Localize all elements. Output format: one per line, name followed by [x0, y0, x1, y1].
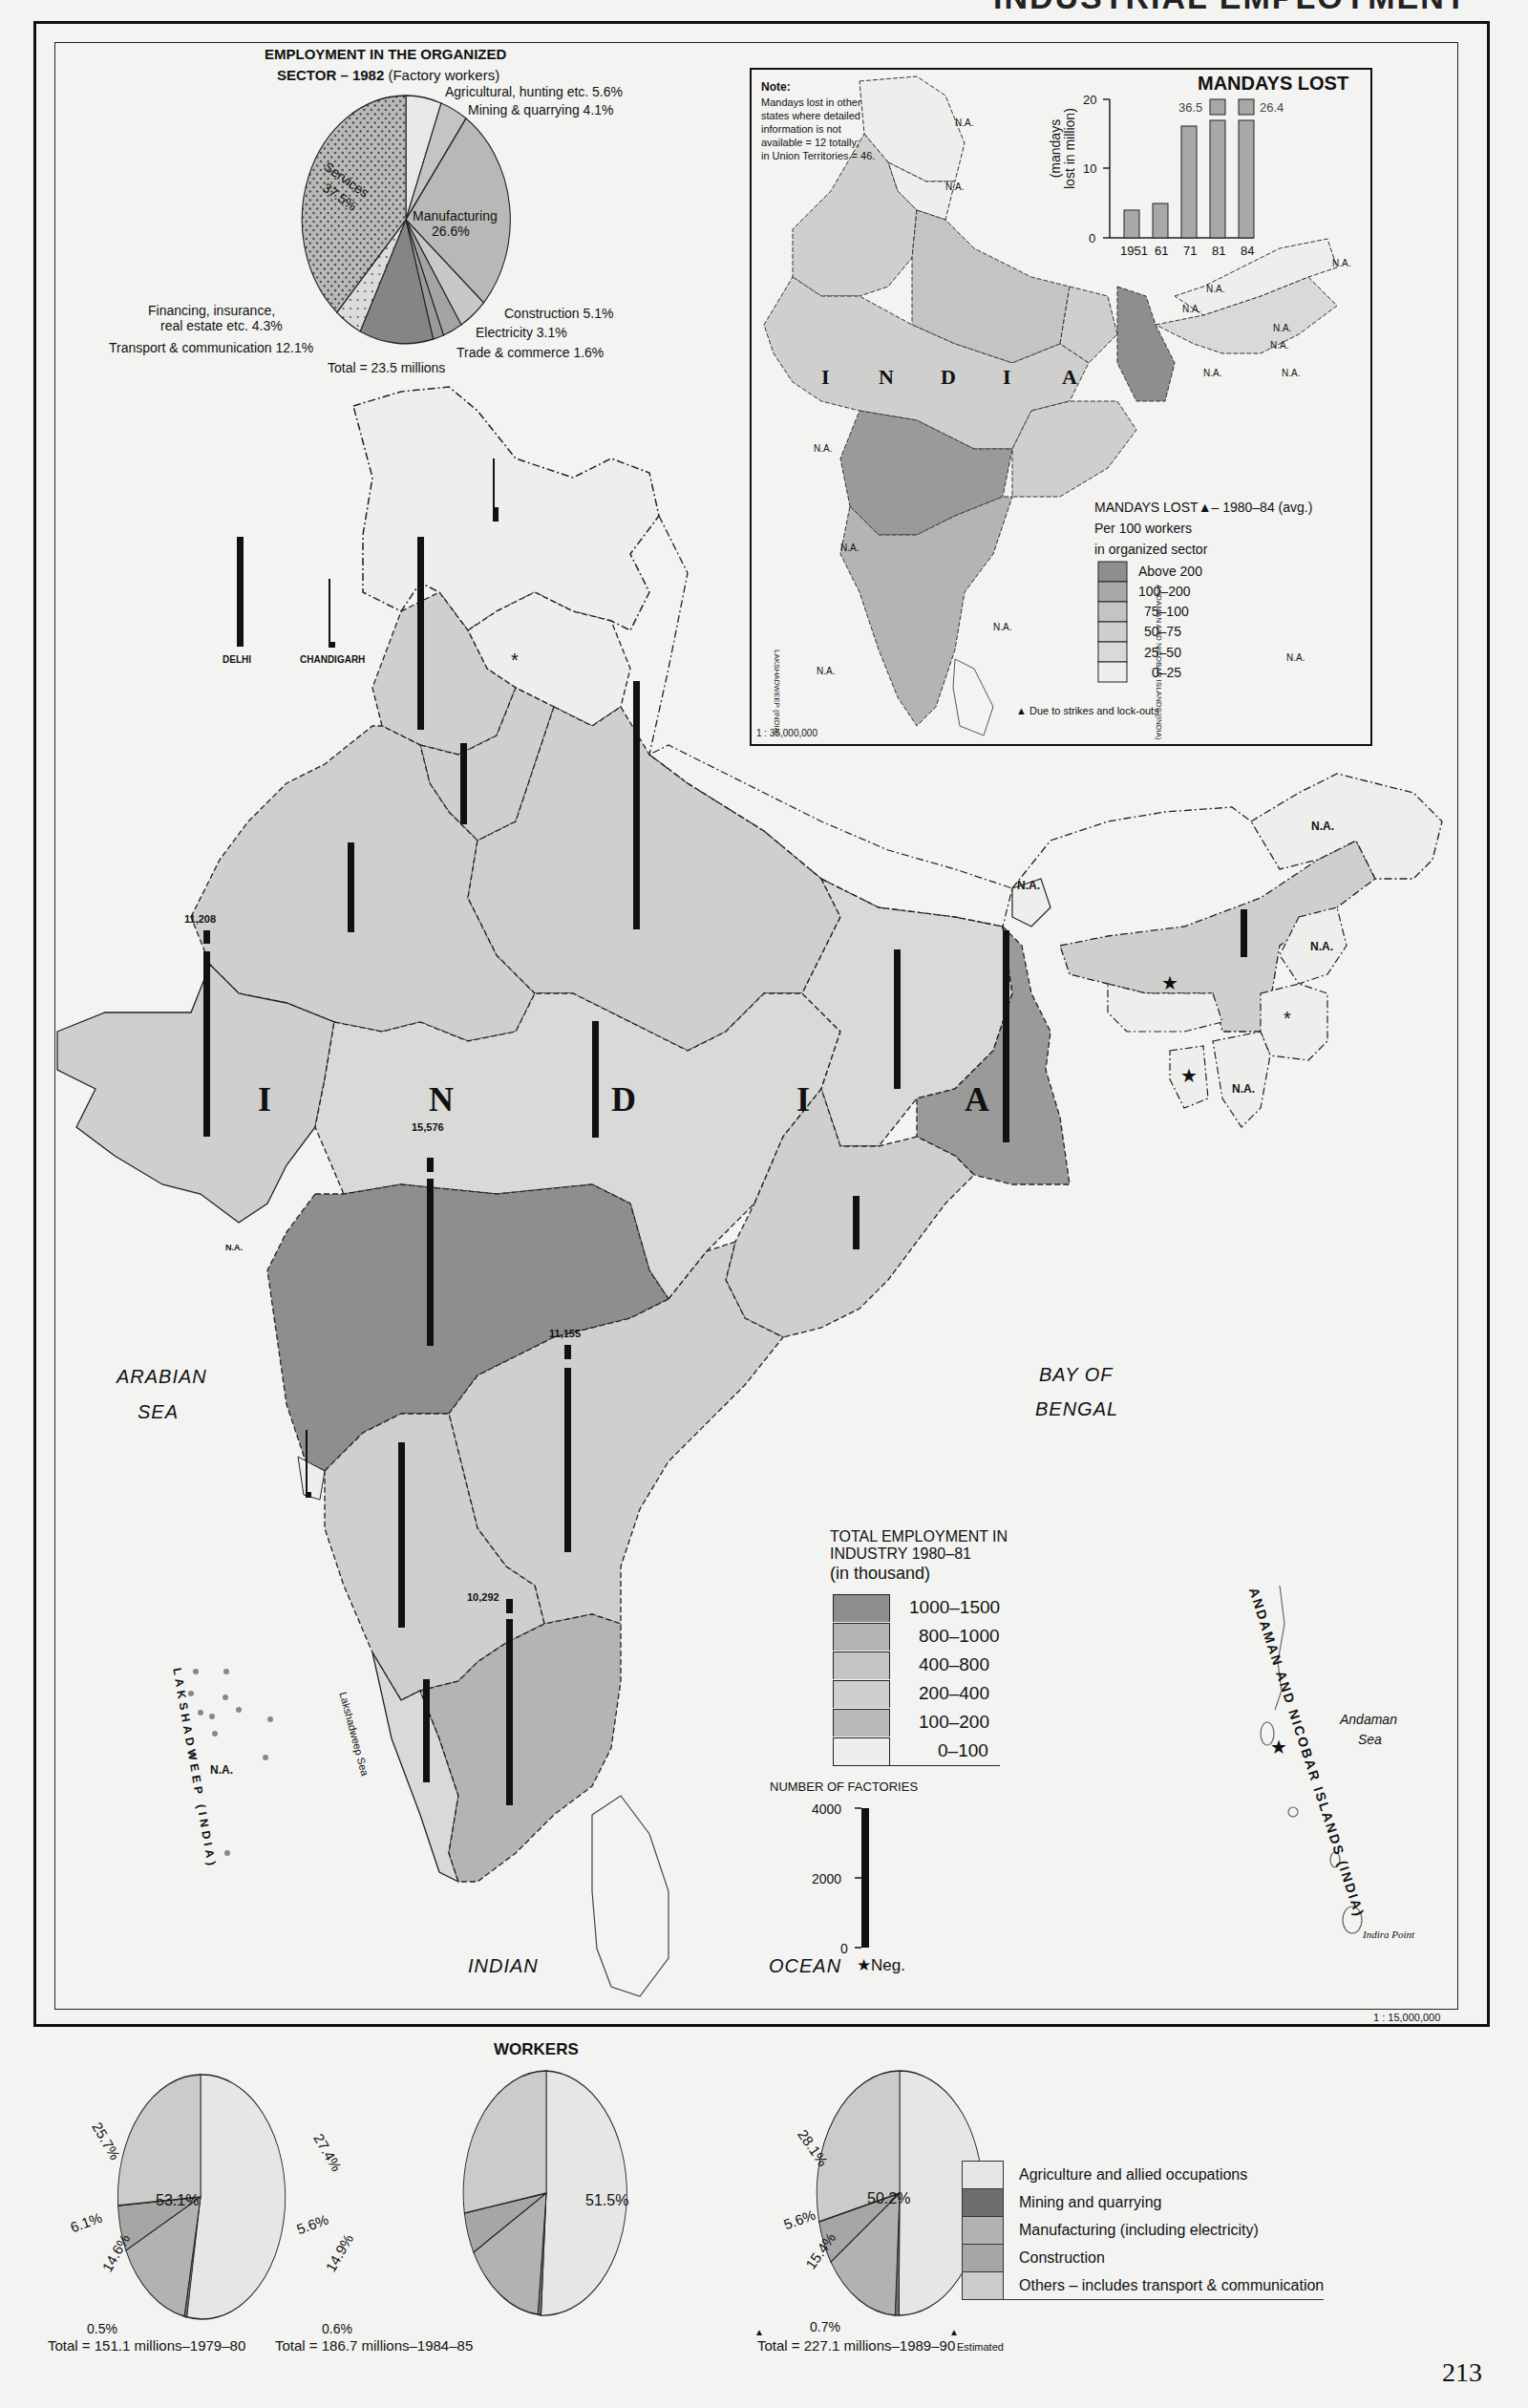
label-arabian: ARABIAN: [117, 1366, 207, 1388]
map-letter-n: N: [429, 1079, 454, 1119]
legend-label: 0–100: [938, 1740, 988, 1761]
mandays-xtick: 71: [1183, 244, 1197, 258]
mandays-legend-class: 75–100: [1144, 604, 1189, 619]
legend-label: Mining and quarrying: [1019, 2194, 1161, 2211]
neg-legend: ★Neg.: [857, 1955, 905, 1975]
label-na-daman: N.A.: [225, 1243, 243, 1252]
pie-label-manufacturing-pct: 26.6%: [432, 224, 470, 239]
legend-swatch: [833, 1680, 890, 1708]
mandays-legend-class: 100–200: [1138, 584, 1191, 599]
bar-label-andhra: 11,155: [549, 1328, 581, 1339]
legend-label: 200–400: [919, 1683, 989, 1704]
workers-legend: Agriculture and allied occupations Minin…: [962, 2161, 1324, 2300]
label-indira-point: Indira Point: [1363, 1929, 1414, 1940]
mandays-ytick-20: 20: [1083, 93, 1096, 107]
pie2-agri-pct: 51.5%: [585, 2192, 628, 2209]
inset-letter-i2: I: [1003, 365, 1011, 390]
label-indian: INDIAN: [468, 1955, 539, 1977]
mandays-xtick: 1951: [1120, 244, 1148, 258]
factories-legend-title: NUMBER OF FACTORIES: [770, 1779, 918, 1794]
legend-swatch: [962, 2188, 1004, 2216]
estimated-note-triangle-icon: ▲: [949, 2327, 959, 2337]
main-map: * ★ * ★ ★: [0, 0, 1528, 2408]
page-number: 213: [1442, 2357, 1482, 2388]
inset-letter-i: I: [821, 365, 830, 390]
mandays-value-84: 26.4: [1260, 100, 1284, 115]
inset-na-lakshadweep: N.A.: [817, 666, 835, 676]
label-na-nagaland: N.A.: [1310, 940, 1333, 953]
legend-label: Construction: [1019, 2249, 1105, 2267]
inset-na-mizoram: N.A.: [1282, 368, 1300, 378]
legend-row: Manufacturing (including electricity): [962, 2216, 1324, 2244]
organized-pie-title-line2: SECTOR – 1982 (Factory workers): [277, 67, 499, 83]
inset-na-manipur: N.A.: [1270, 340, 1288, 351]
mandays-legend-title-1: MANDAYS LOST▲– 1980–84 (avg.): [1094, 500, 1312, 515]
organized-pie-title-line1: EMPLOYMENT IN THE ORGANIZED: [265, 46, 506, 62]
mandays-xtick: 61: [1155, 244, 1168, 258]
inset-na-sikkim: N.A.: [1206, 284, 1224, 294]
mandays-ylabel: (mandayslost in million): [1049, 108, 1077, 189]
legend-row: 200–400: [833, 1679, 1000, 1708]
inset-na-goa: N.A.: [840, 543, 859, 553]
employment-legend: 1000–1500 800–1000 400–800 200–400 100–2…: [833, 1593, 1000, 1766]
inset-na-pondicherry: N.A.: [993, 622, 1011, 632]
legend-label: 1000–1500: [909, 1597, 1000, 1618]
inset-note-body: Mandays lost in other states where detai…: [761, 96, 875, 162]
legend-row: Agriculture and allied occupations: [962, 2161, 1324, 2188]
inset-na-goa-dn: N.A.: [814, 443, 832, 454]
legend-swatch: [962, 2244, 1004, 2271]
legend-swatch: [833, 1594, 890, 1622]
map-letter-d: D: [611, 1079, 636, 1119]
legend-label: Agriculture and allied occupations: [1019, 2166, 1247, 2184]
inset-note-title: Note:: [761, 80, 791, 94]
label-delhi: DELHI: [223, 654, 251, 665]
workers-title: WORKERS: [494, 2040, 579, 2059]
inset-lakshadweep-label: LAKSHADWEEP (INDIA): [773, 650, 781, 735]
mandays-legend-title-3: in organized sector: [1094, 542, 1207, 557]
pie-label-trade: Trade & commerce 1.6%: [456, 345, 604, 360]
factories-tick-4000: 4000: [812, 1801, 841, 1817]
mandays-ytick-0: 0: [1089, 231, 1095, 245]
pie-label-transport: Transport & communication 12.1%: [109, 340, 313, 355]
bar-label-maharashtra: 15,576: [412, 1121, 444, 1133]
note-line: in Union Territories = 46.: [761, 149, 875, 162]
estimated-triangle-icon: ▲: [754, 2327, 764, 2337]
pie-label-mining: Mining & quarrying 4.1%: [468, 102, 614, 117]
pie-label-finance-2: real estate etc. 4.3%: [160, 318, 283, 333]
label-na-mizoram: N.A.: [1232, 1082, 1255, 1096]
legend-swatch: [962, 2216, 1004, 2244]
legend-label: Others – includes transport & communicat…: [1019, 2277, 1324, 2294]
legend-row: 1000–1500: [833, 1593, 1000, 1622]
label-arabian-sea: SEA: [138, 1401, 179, 1423]
pie-label-construction: Construction 5.1%: [504, 306, 613, 321]
pie-label-agri: Agricultural, hunting etc. 5.6%: [445, 84, 623, 99]
label-na-sikkim: N.A.: [1017, 879, 1040, 892]
mandays-xtick: 84: [1241, 244, 1254, 258]
inset-na-arunachal: N.A.: [1332, 258, 1350, 268]
pie3-total: Total = 227.1 millions–1989–90: [757, 2337, 955, 2354]
pie-label-manufacturing: Manufacturing: [413, 208, 498, 224]
main-map-scale: 1 : 15,000,000: [1373, 2012, 1440, 2023]
legend-label: 400–800: [919, 1654, 989, 1675]
inset-na-kashmir: N.A.: [955, 117, 973, 128]
region-manipur: [1261, 984, 1327, 1060]
label-na-lakshadweep: N.A.: [210, 1763, 233, 1777]
label-andaman-sea: Sea: [1358, 1732, 1382, 1747]
pie1-total: Total = 151.1 millions–1979–80: [48, 2337, 245, 2354]
legend-row: 0–100: [833, 1737, 1000, 1765]
neg-label: Neg.: [871, 1956, 905, 1974]
inset-andaman-label: ANDAMAN AND NICOBAR ISLANDS (INDIA): [1155, 585, 1163, 740]
legend-label: Manufacturing (including electricity): [1019, 2222, 1259, 2239]
employment-legend-title-1: TOTAL EMPLOYMENT IN: [830, 1528, 1008, 1545]
svg-text:*: *: [511, 650, 519, 671]
map-letter-a: A: [965, 1079, 989, 1119]
inset-letter-a: A: [1062, 365, 1077, 390]
pie1-mining-pct: 0.5%: [87, 2321, 117, 2336]
mandays-chart-title: MANDAYS LOST: [1198, 73, 1348, 95]
estimated-note: Estimated: [957, 2341, 1004, 2353]
label-bay-of: BAY OF: [1039, 1364, 1114, 1386]
legend-row: 800–1000: [833, 1622, 1000, 1651]
legend-swatch: [833, 1652, 890, 1679]
bar-label-tamil-nadu: 10,292: [467, 1591, 499, 1603]
mandays-legend-class: Above 200: [1138, 564, 1202, 579]
